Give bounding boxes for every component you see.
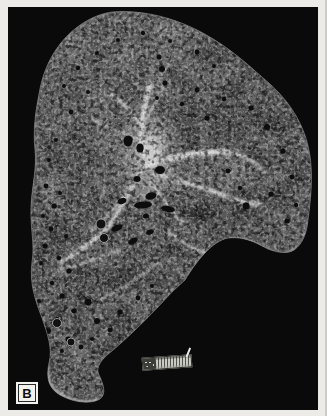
panel-label-letter: B xyxy=(18,384,36,402)
ruler-dark-end xyxy=(143,358,157,370)
panel-label: B xyxy=(16,382,38,404)
specimen-photo xyxy=(0,0,327,416)
figure-panel: B xyxy=(0,0,327,416)
